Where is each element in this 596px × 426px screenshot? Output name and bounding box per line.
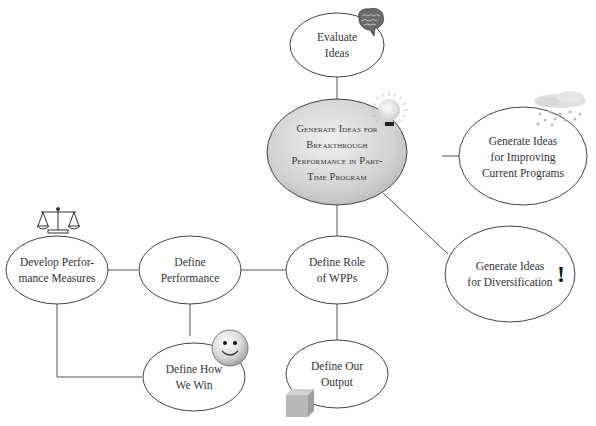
connector-measures-win bbox=[57, 303, 142, 377]
node-label: Define Performance bbox=[161, 254, 220, 286]
node-label: Generate Ideas for Diversification bbox=[467, 258, 552, 290]
node-label: Develop Perfor- mance Measures bbox=[19, 254, 96, 286]
node-label: Evaluate Ideas bbox=[317, 29, 357, 61]
node-develop-performance-measures[interactable]: Develop Perfor- mance Measures bbox=[6, 236, 108, 304]
node-evaluate-ideas[interactable]: Evaluate Ideas bbox=[290, 13, 384, 77]
node-label: Define How We Win bbox=[166, 361, 223, 393]
node-diversification[interactable]: Generate Ideas for Diversification bbox=[446, 226, 574, 322]
node-define-performance[interactable]: Define Performance bbox=[139, 236, 241, 304]
node-improving-current-programs[interactable]: Generate Ideas for Improving Current Pro… bbox=[462, 108, 584, 206]
node-label: Generate Ideas for Improving Current Pro… bbox=[482, 133, 564, 181]
node-label: Define Our Output bbox=[311, 358, 363, 390]
node-define-our-output[interactable]: Define Our Output bbox=[286, 340, 388, 408]
node-label: Define Role of WPPs bbox=[309, 254, 365, 286]
scales-icon bbox=[37, 208, 80, 234]
node-define-how-we-win[interactable]: Define How We Win bbox=[143, 343, 245, 411]
node-label: Generate Ideas for Breakthrough Performa… bbox=[291, 121, 382, 185]
node-generate-breakthrough[interactable]: Generate Ideas for Breakthrough Performa… bbox=[270, 100, 404, 206]
node-define-role-wpps[interactable]: Define Role of WPPs bbox=[286, 236, 388, 304]
